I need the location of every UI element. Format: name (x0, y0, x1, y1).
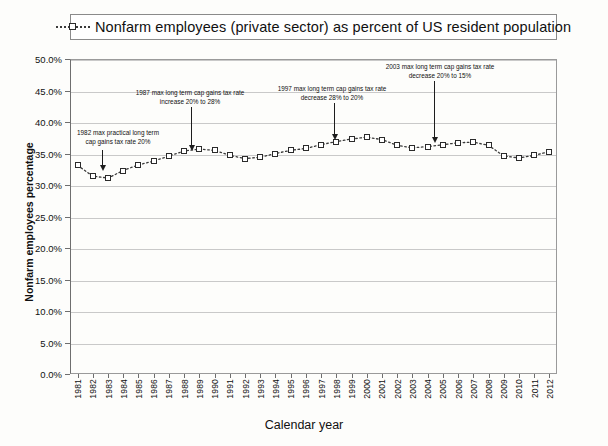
data-point-marker (501, 153, 507, 159)
x-axis-tick-label: 1981 (73, 379, 83, 399)
y-axis-tick (65, 91, 70, 92)
x-axis-tick-label: 2001 (377, 379, 387, 399)
annotation-arrow-line (334, 103, 335, 135)
x-axis-tick (428, 374, 429, 378)
data-point-marker (394, 142, 400, 148)
x-axis-tick (215, 374, 216, 378)
data-point-marker (257, 154, 263, 160)
data-point-marker (470, 139, 476, 145)
data-point-marker (196, 146, 202, 152)
data-point-marker (151, 158, 157, 164)
x-axis-tick (336, 374, 337, 378)
x-axis-tick (382, 374, 383, 378)
annotation-arrow-line (191, 107, 192, 146)
data-point-marker (272, 151, 278, 157)
data-point-marker (379, 137, 385, 143)
x-axis-tick (397, 374, 398, 378)
x-axis-tick-label: 2010 (514, 379, 524, 399)
data-point-marker (90, 173, 96, 179)
y-axis-tick (65, 343, 70, 344)
x-axis-tick (443, 374, 444, 378)
data-point-marker (105, 175, 111, 181)
x-axis-tick (412, 374, 413, 378)
y-axis-tick-label: 45.0% (8, 85, 62, 96)
y-axis-tick-label: 15.0% (8, 274, 62, 285)
x-axis-tick (321, 374, 322, 378)
annotation-line-2: cap gains tax rate 20% (28, 137, 208, 146)
x-axis-tick-label: 1982 (88, 379, 98, 399)
x-axis-tick-label: 2008 (484, 379, 494, 399)
annotation-arrow-head-icon (332, 134, 338, 140)
y-axis-tick-label: 25.0% (8, 211, 62, 222)
x-axis-tick (260, 374, 261, 378)
y-axis-tick (65, 59, 70, 60)
y-axis-tick-label: 50.0% (8, 54, 62, 65)
y-axis-tick (65, 217, 70, 218)
data-point-marker (318, 142, 324, 148)
x-axis-tick-label: 1996 (301, 379, 311, 399)
x-axis-tick-label: 1988 (180, 379, 190, 399)
x-axis-tick (458, 374, 459, 378)
x-axis-tick (473, 374, 474, 378)
annotation-arrow-head-icon (432, 137, 438, 143)
data-point-marker (135, 162, 141, 168)
x-axis-tick-label: 1993 (256, 379, 266, 399)
y-axis-tick-label: 40.0% (8, 117, 62, 128)
x-axis-tick-label: 1990 (210, 379, 220, 399)
x-axis-tick (123, 374, 124, 378)
data-point-marker (516, 155, 522, 161)
x-axis-tick-label: 1985 (134, 379, 144, 399)
data-point-marker (242, 156, 248, 162)
x-axis-tick (504, 374, 505, 378)
data-point-marker (120, 168, 126, 174)
x-axis-tick-label: 1992 (241, 379, 251, 399)
y-axis-tick-label: 20.0% (8, 243, 62, 254)
x-axis-tick (169, 374, 170, 378)
data-point-marker (409, 145, 415, 151)
annotation-line-1: 1997 max long term cap gains tax rate (242, 84, 422, 93)
data-point-marker (212, 147, 218, 153)
x-axis-tick-label: 1999 (347, 379, 357, 399)
x-axis-tick-label: 2007 (469, 379, 479, 399)
data-point-marker (227, 152, 233, 158)
annotation-arrow-head-icon (100, 165, 106, 171)
y-axis-tick-label: 5.0% (8, 337, 62, 348)
data-point-marker (486, 142, 492, 148)
x-axis-tick-label: 2012 (545, 379, 555, 399)
x-axis-tick-label: 1998 (332, 379, 342, 399)
y-axis-tick-label: 0.0% (8, 369, 62, 380)
x-axis-tick-label: 1983 (104, 379, 114, 399)
y-axis-tick-label: 30.0% (8, 180, 62, 191)
x-axis-tick (184, 374, 185, 378)
y-axis-tick (65, 122, 70, 123)
x-axis-tick (199, 374, 200, 378)
y-axis-tick (65, 311, 70, 312)
x-axis-tick (275, 374, 276, 378)
y-axis-tick-label: 35.0% (8, 148, 62, 159)
y-axis-tick (65, 280, 70, 281)
x-axis-title: Calendar year (0, 418, 608, 432)
data-point-marker (166, 153, 172, 159)
data-point-marker (75, 162, 81, 168)
x-axis-tick (138, 374, 139, 378)
y-axis-tick (65, 248, 70, 249)
annotation-line-1: 1982 max practical long term (28, 128, 208, 137)
x-axis-tick (93, 374, 94, 378)
data-point-marker (349, 136, 355, 142)
x-axis-tick (534, 374, 535, 378)
x-axis-tick (154, 374, 155, 378)
x-axis-tick-label: 1987 (164, 379, 174, 399)
y-axis-tick (65, 154, 70, 155)
x-axis-tick (78, 374, 79, 378)
x-axis-tick-label: 2011 (530, 379, 540, 398)
annotation-arrow-head-icon (189, 145, 195, 151)
x-axis-tick-label: 1994 (271, 379, 281, 399)
x-axis-tick-label: 1995 (286, 379, 296, 399)
data-point-marker (425, 144, 431, 150)
x-axis-tick-label: 2006 (454, 379, 464, 399)
x-axis-tick-label: 1997 (317, 379, 327, 399)
x-axis-tick (549, 374, 550, 378)
data-point-marker (364, 134, 370, 140)
x-axis-tick-label: 2000 (362, 379, 372, 399)
annotation-arrow-line (102, 150, 103, 166)
